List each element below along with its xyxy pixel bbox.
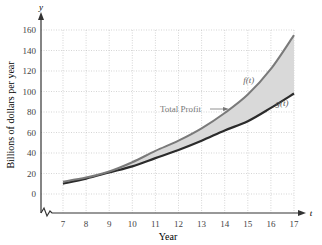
y-tick-label: 60 <box>27 128 37 138</box>
x-tick-label: 12 <box>174 219 183 229</box>
x-tick-label: 10 <box>128 219 138 229</box>
chart: y t 020406080100120140160 78910111213141… <box>0 0 322 245</box>
x-tick-label: 11 <box>151 219 160 229</box>
y-axis-arrow-icon <box>38 12 44 20</box>
f-label: f(t) <box>243 75 254 85</box>
y-tick-labels: 020406080100120140160 <box>23 25 37 199</box>
y-tick-label: 100 <box>23 87 37 97</box>
y-tick-label: 140 <box>23 46 37 56</box>
x-tick-label: 15 <box>243 219 253 229</box>
x-tick-label: 16 <box>266 219 276 229</box>
x-tick-label: 14 <box>220 219 230 229</box>
x-axis-label: Year <box>159 231 178 242</box>
grid <box>41 30 294 213</box>
x-tick-label: 9 <box>107 219 112 229</box>
x-tick-labels: 7891011121314151617 <box>61 219 299 229</box>
x-tick-label: 13 <box>197 219 207 229</box>
y-tick-label: 0 <box>32 189 37 199</box>
y-tick-label: 120 <box>23 66 37 76</box>
x-axis <box>41 208 300 216</box>
x-tick-label: 8 <box>84 219 89 229</box>
x-axis-symbol: t <box>310 208 313 218</box>
y-tick-label: 80 <box>27 107 37 117</box>
y-tick-label: 40 <box>27 148 37 158</box>
y-axis-symbol: y <box>38 2 43 12</box>
x-axis-arrow-icon <box>298 210 306 216</box>
x-tick-label: 17 <box>290 219 300 229</box>
y-axis-label: Billions of dollars per year <box>5 61 16 169</box>
y-tick-label: 160 <box>23 25 37 35</box>
g-label: g(t) <box>276 98 289 108</box>
y-tick-label: 20 <box>27 169 37 179</box>
x-tick-label: 7 <box>61 219 66 229</box>
total-profit-label: Total Profit <box>160 104 202 114</box>
